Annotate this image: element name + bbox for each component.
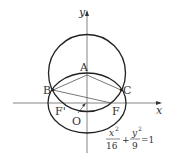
label-b: B [43,84,51,97]
point-c [120,89,123,92]
ellipse-circle-diagram: y x A B C F F' O x 2 16 + y 2 9 =1 [0,0,177,166]
eq-x-exp: 2 [115,125,119,132]
x-axis-label: x [156,104,163,117]
point-b [52,89,55,92]
eq-9: 9 [132,141,138,151]
eq-plus: + [122,135,130,145]
label-o: O [72,115,81,128]
origin-arrow-icon [82,103,86,107]
eq-rhs: =1 [141,135,154,145]
eq-x: x [109,128,114,138]
eq-y-exp: 2 [138,125,142,132]
label-f: F [112,105,120,118]
eq-y: y [131,128,138,138]
ellipse-equation: x 2 16 + y 2 9 =1 [106,125,154,151]
label-f-prime: F' [55,105,66,118]
label-c: C [123,84,131,97]
y-axis-arrow-icon [85,10,89,16]
eq-16: 16 [106,141,118,151]
segment-bf [53,90,111,103]
label-a: A [79,61,89,74]
y-axis-label: y [78,6,86,19]
